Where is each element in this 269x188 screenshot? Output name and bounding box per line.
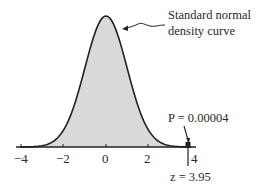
curve-label-line1: Standard normal [168, 8, 251, 22]
tail-area-marker [186, 142, 191, 148]
curve-label-arrowhead [122, 26, 128, 32]
tick-label-m4: −4 [14, 151, 28, 166]
p-value-label: P = 0.00004 [168, 111, 229, 125]
tick-label-4: 4 [191, 151, 198, 166]
curve-label-line2: density curve [168, 24, 235, 38]
normal-curve-chart: −4 −2 0 2 4 z = 3.95 P = 0.00004 Standar… [0, 0, 269, 188]
tick-label-2: 2 [144, 151, 151, 166]
curve-label-pointer [126, 23, 165, 28]
tick-label-m2: −2 [56, 151, 70, 166]
p-value-arrow [184, 126, 188, 140]
tick-label-0: 0 [102, 151, 109, 166]
curve-area [20, 16, 191, 147]
z-value-label: z = 3.95 [170, 170, 211, 184]
